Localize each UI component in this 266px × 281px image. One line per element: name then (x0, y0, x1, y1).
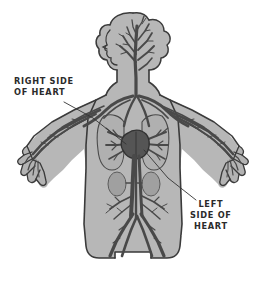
kidney-right (142, 172, 160, 196)
label-right-side-of-heart: RIGHT SIDE OF HEART (14, 76, 74, 98)
illustration-canvas: RIGHT SIDE OF HEART LEFT SIDE OF HEART (0, 0, 266, 281)
label-right-line1: RIGHT SIDE (14, 76, 74, 87)
lung-left (97, 115, 124, 170)
label-left-line2: SIDE OF (190, 210, 232, 221)
vessels-aorta (131, 156, 142, 218)
label-right-line2: OF HEART (14, 87, 74, 98)
label-left-side-of-heart: LEFT SIDE OF HEART (190, 199, 232, 232)
label-left-line3: HEART (190, 221, 232, 232)
kidney-left (108, 172, 126, 196)
circulatory-system-drawing (0, 0, 266, 281)
label-left-line1: LEFT (190, 199, 232, 210)
